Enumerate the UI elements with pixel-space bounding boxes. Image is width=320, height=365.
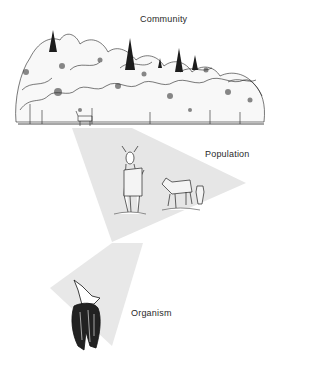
population-beam <box>72 128 246 242</box>
deer-back <box>196 186 204 204</box>
population-label: Population <box>205 149 250 159</box>
community-label: Community <box>140 14 187 24</box>
organism-label: Organism <box>131 308 172 318</box>
